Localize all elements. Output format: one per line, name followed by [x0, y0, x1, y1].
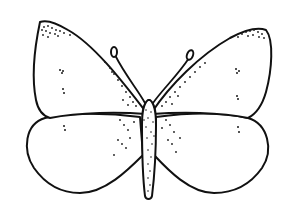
- left-antenna-club: [111, 47, 117, 57]
- left-hindwing: [27, 114, 143, 193]
- butterfly-drawing: [0, 0, 296, 222]
- right-antenna-club: [185, 49, 194, 60]
- right-hindwing: [154, 114, 268, 193]
- right-forewing: [152, 29, 271, 118]
- body: [142, 100, 156, 199]
- left-forewing: [34, 21, 146, 118]
